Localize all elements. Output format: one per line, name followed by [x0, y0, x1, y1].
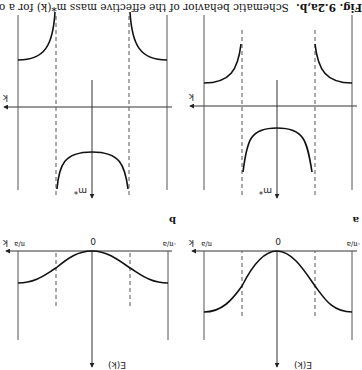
mass-curve-left-a-branch — [315, 44, 352, 83]
panel-a-energy: E(k) k 0 -π/a π/a a — [188, 215, 360, 370]
k-axis-mass-label-b: k — [2, 93, 8, 103]
figure: E(k) k 0 -π/a π/a a E(k) k 0 -π/a π/a b … — [0, 0, 362, 370]
panel-b-energy: E(k) k 0 -π/a π/a b — [2, 215, 176, 370]
k-axis-label-b: k — [2, 238, 8, 248]
mass-axis-label-b: m* — [73, 186, 87, 196]
caption-label: Fig. 9.2a,b. — [296, 2, 362, 14]
pos-bound-label-a: π/a — [201, 240, 212, 248]
energy-band-b — [18, 251, 168, 283]
k-axis-label-a: k — [188, 238, 194, 248]
zero-label-b: 0 — [90, 236, 96, 246]
caption-text: Schematic behavior of the effective mass… — [0, 2, 289, 14]
figure-caption: Fig. 9.2a,b. Schematic behavior of the e… — [0, 2, 362, 14]
neg-bound-label-b: -π/a — [163, 240, 176, 248]
neg-bound-label-a: -π/a — [347, 240, 360, 248]
panel-label-b: b — [169, 215, 176, 226]
k-axis-mass-label-a: k — [188, 92, 194, 102]
mass-axis-label-a: m* — [258, 186, 272, 196]
mass-curve-right-b-branch — [18, 12, 55, 60]
panel-label-a: a — [352, 215, 359, 226]
panel-a-mass: m* k — [188, 15, 357, 198]
figure-svg: E(k) k 0 -π/a π/a a E(k) k 0 -π/a π/a b … — [0, 0, 362, 370]
pos-bound-label-b: π/a — [14, 240, 25, 248]
energy-band-a — [204, 251, 352, 312]
mass-curve-left-b-branch — [130, 12, 167, 60]
zero-label-a: 0 — [275, 236, 281, 246]
panel-b-mass: m* k — [2, 12, 172, 198]
energy-axis-label-b: E(k) — [108, 360, 126, 370]
energy-axis-label-a: E(k) — [294, 360, 312, 370]
mass-curve-right-a-branch — [204, 44, 241, 83]
